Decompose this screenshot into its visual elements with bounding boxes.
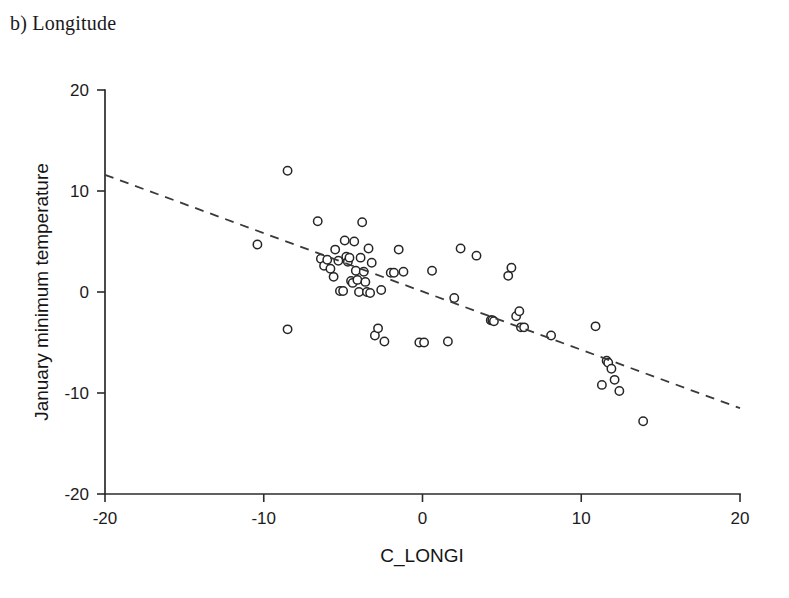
data-point bbox=[515, 307, 523, 315]
data-point bbox=[428, 267, 436, 275]
data-point bbox=[364, 244, 372, 252]
data-point bbox=[377, 286, 385, 294]
x-ticks-group: -20-1001020 bbox=[93, 494, 750, 528]
data-point bbox=[504, 272, 512, 280]
data-point bbox=[339, 287, 347, 295]
data-point bbox=[390, 269, 398, 277]
data-point bbox=[420, 338, 428, 346]
data-point bbox=[366, 289, 374, 297]
x-tick-label: 20 bbox=[731, 509, 750, 528]
x-tick-label: -10 bbox=[251, 509, 276, 528]
data-point bbox=[361, 278, 369, 286]
x-axis-title: C_LONGI bbox=[380, 545, 463, 567]
data-point bbox=[591, 322, 599, 330]
data-point bbox=[341, 236, 349, 244]
data-point bbox=[283, 167, 291, 175]
data-point bbox=[331, 245, 339, 253]
data-point bbox=[326, 265, 334, 273]
data-point bbox=[368, 259, 376, 267]
scatter-plot-figure: b) Longitude -20-1001020 -20-1001020 C_L… bbox=[0, 0, 789, 598]
data-point bbox=[456, 244, 464, 252]
data-point bbox=[450, 294, 458, 302]
data-point bbox=[353, 276, 361, 284]
y-tick-label: -20 bbox=[64, 485, 89, 504]
y-tick-label: 0 bbox=[80, 283, 89, 302]
y-ticks-group: -20-1001020 bbox=[64, 81, 105, 504]
plot-canvas: -20-1001020 -20-1001020 C_LONGI January … bbox=[0, 0, 789, 598]
x-tick-label: -20 bbox=[93, 509, 118, 528]
data-point bbox=[607, 365, 615, 373]
data-point bbox=[350, 237, 358, 245]
data-points-group bbox=[253, 167, 647, 426]
data-point bbox=[374, 324, 382, 332]
data-point bbox=[598, 381, 606, 389]
x-tick-label: 0 bbox=[418, 509, 427, 528]
data-point bbox=[314, 217, 322, 225]
data-point bbox=[355, 288, 363, 296]
data-point bbox=[352, 267, 360, 275]
regression-trend-line bbox=[105, 175, 740, 408]
data-point bbox=[444, 337, 452, 345]
data-point bbox=[507, 264, 515, 272]
y-tick-label: -10 bbox=[64, 384, 89, 403]
data-point bbox=[610, 376, 618, 384]
data-point bbox=[356, 253, 364, 261]
data-point bbox=[472, 251, 480, 259]
y-tick-label: 10 bbox=[70, 182, 89, 201]
y-axis-title: January minimum temperature bbox=[31, 163, 52, 421]
y-tick-label: 20 bbox=[70, 81, 89, 100]
data-point bbox=[358, 218, 366, 226]
x-tick-label: 10 bbox=[572, 509, 591, 528]
data-point bbox=[329, 273, 337, 281]
data-point bbox=[399, 268, 407, 276]
data-point bbox=[283, 325, 291, 333]
data-point bbox=[323, 255, 331, 263]
data-point bbox=[380, 337, 388, 345]
data-point bbox=[639, 417, 647, 425]
data-point bbox=[253, 240, 261, 248]
data-point bbox=[615, 387, 623, 395]
data-point bbox=[394, 245, 402, 253]
data-point bbox=[345, 253, 353, 261]
